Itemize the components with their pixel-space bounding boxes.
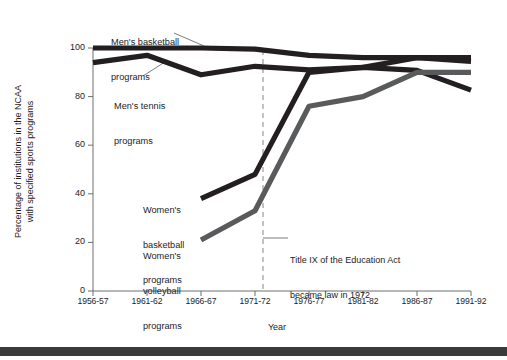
title-ix-annotation-line-1: Title IX of the Education Act [290, 255, 400, 267]
series-line-womens-volleyball [201, 72, 471, 240]
y-tick-label-80: 80 [58, 91, 85, 103]
x-tick-label-1991-92: 1991-92 [447, 296, 495, 308]
y-tick-label-60: 60 [58, 139, 85, 151]
series-label-womens-volleyball-line-1: Women's [143, 251, 182, 263]
y-tick-label-20: 20 [58, 236, 85, 248]
title-ix-annotation-line-2: became law in 1972 [290, 290, 400, 302]
y-tick-label-40: 40 [58, 188, 85, 200]
y-axis-ticks [88, 48, 93, 291]
y-tick-label-0: 0 [58, 285, 85, 297]
y-tick-label-100: 100 [58, 42, 85, 54]
series-label-womens-volleyball-line-3: programs [143, 321, 182, 333]
footer-bar [0, 347, 507, 356]
y-axis-title: Percentage of institutions in the NCAA w… [13, 42, 36, 282]
chart-figure: 100 80 60 40 20 0 1956-57 1961-62 1966-6… [0, 0, 507, 360]
title-ix-annotation: Title IX of the Education Act became law… [290, 232, 400, 325]
series-label-womens-basketball-line-1: Women's [143, 205, 184, 217]
series-label-mens-tennis-line-2: programs [114, 136, 165, 148]
series-label-womens-volleyball-line-2: volleyball [143, 286, 182, 298]
x-tick-label-1956-57: 1956-57 [69, 296, 117, 308]
y-axis-title-line-2: with specified sports programs [24, 42, 36, 282]
x-tick-label-1971-72: 1971-72 [231, 296, 279, 308]
series-line-womens-basketball [201, 58, 471, 199]
series-label-mens-tennis: Men's tennis programs [114, 78, 165, 171]
y-axis-title-line-1: Percentage of institutions in the NCAA [13, 42, 25, 282]
series-label-womens-volleyball: Women's volleyball programs [143, 228, 182, 356]
series-label-mens-tennis-line-1: Men's tennis [114, 101, 165, 113]
series-label-mens-basketball-line-1: Men's basketball [111, 37, 179, 49]
